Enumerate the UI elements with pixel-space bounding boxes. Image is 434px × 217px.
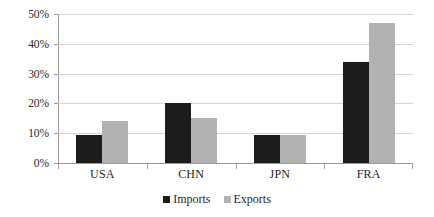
bar-usa-exports [102, 121, 128, 163]
bar-group-jpn [236, 14, 325, 163]
bar-chart: 50% 40% 30% 20% 10% 0% [0, 0, 434, 217]
bar-chn-exports [191, 118, 217, 163]
y-tick-label-10: 10% [0, 127, 54, 139]
x-label-usa: USA [58, 167, 147, 182]
legend-item-exports: Exports [224, 192, 271, 207]
legend-swatch-imports-icon [163, 196, 170, 203]
x-label-fra: FRA [324, 167, 413, 182]
y-axis-labels: 50% 40% 30% 20% 10% 0% [0, 0, 54, 217]
y-tick-label-50: 50% [0, 8, 54, 20]
y-tick-label-20: 20% [0, 97, 54, 109]
bar-groups [58, 14, 413, 163]
legend-swatch-exports-icon [224, 196, 231, 203]
bar-group-fra [324, 14, 413, 163]
bar-group-usa [58, 14, 147, 163]
bar-fra-exports [369, 23, 395, 163]
legend-item-imports: Imports [163, 192, 210, 207]
legend-label-imports: Imports [173, 192, 210, 207]
x-label-jpn: JPN [236, 167, 325, 182]
chart-legend: Imports Exports [0, 192, 434, 207]
bar-chn-imports [165, 103, 191, 163]
y-tick-label-40: 40% [0, 38, 54, 50]
y-tick-label-30: 30% [0, 68, 54, 80]
y-tick-label-0: 0% [0, 157, 54, 169]
bar-jpn-exports [280, 135, 306, 163]
x-label-chn: CHN [147, 167, 236, 182]
bar-usa-imports [76, 135, 102, 163]
bar-jpn-imports [254, 135, 280, 163]
x-axis-labels: USA CHN JPN FRA [58, 167, 413, 182]
bar-group-chn [147, 14, 236, 163]
legend-label-exports: Exports [234, 192, 271, 207]
bar-fra-imports [343, 62, 369, 163]
